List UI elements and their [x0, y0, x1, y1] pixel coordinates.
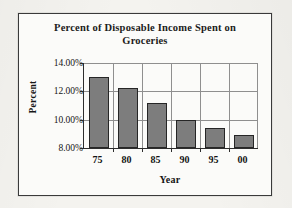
bar-95[interactable] [205, 128, 225, 148]
y-axis-tick-labels: 14.00% 12.00% 10.00% 8.00% [29, 14, 83, 197]
x-tick-label-00: 00 [228, 154, 257, 165]
x-tick-label-80: 80 [112, 154, 141, 165]
y-tick-label-8: 8.00% [37, 143, 83, 153]
plot-wrapper: Percent 14.00% 12.00% 10.00% 8.00% [19, 14, 273, 197]
bar-slot [113, 63, 142, 148]
x-axis-tick-labels: 75 80 85 90 95 00 [83, 154, 257, 165]
bar-slot [84, 63, 113, 148]
y-tick-label-10: 10.00% [37, 115, 83, 125]
x-tick-mark-2 [142, 148, 143, 152]
bar-85[interactable] [147, 103, 167, 148]
bar-90[interactable] [176, 120, 196, 148]
bar-00[interactable] [234, 135, 254, 148]
x-tick-label-90: 90 [170, 154, 199, 165]
y-tick-mark-8 [80, 148, 84, 149]
x-tick-label-95: 95 [199, 154, 228, 165]
x-tick-mark-4 [200, 148, 201, 152]
x-tick-mark-5 [229, 148, 230, 152]
bar-slot [229, 63, 258, 148]
x-tick-mark-3 [171, 148, 172, 152]
x-tick-label-75: 75 [83, 154, 112, 165]
y-tick-label-14: 14.00% [37, 58, 83, 68]
y-tick-label-12: 12.00% [37, 86, 83, 96]
x-tick-label-85: 85 [141, 154, 170, 165]
bar-series [84, 63, 258, 148]
chart-frame: Percent of Disposable Income Spent on Gr… [18, 13, 272, 196]
bar-75[interactable] [89, 77, 109, 148]
x-axis-title: Year [83, 174, 257, 185]
plot-area [83, 63, 258, 149]
bar-80[interactable] [118, 88, 138, 148]
bar-slot [200, 63, 229, 148]
bar-slot [142, 63, 171, 148]
x-tick-mark-1 [113, 148, 114, 152]
bar-slot [171, 63, 200, 148]
